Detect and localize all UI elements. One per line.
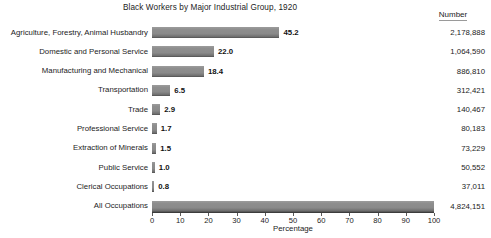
category-label: Public Service — [99, 163, 148, 173]
row-count-value: 312,421 — [415, 86, 485, 96]
chart-row: Extraction of Minerals1.573,229 — [0, 140, 491, 159]
row-count-value: 37,011 — [415, 182, 485, 192]
bar-value-label: 1.0 — [159, 163, 170, 173]
category-label: Professional Service — [77, 124, 148, 134]
bar-value-label: 18.4 — [208, 67, 223, 77]
bar-value-label: 45.2 — [283, 28, 298, 38]
category-label: All Occupations — [94, 201, 148, 211]
bar-value-label: 0.8 — [158, 182, 169, 192]
chart-row: Transportation6.5312,421 — [0, 82, 491, 101]
category-label: Domestic and Personal Service — [39, 47, 148, 57]
chart-row: Agriculture, Forestry, Animal Husbandry4… — [0, 24, 491, 43]
row-count-value: 4,824,151 — [415, 202, 485, 212]
bar[interactable] — [152, 123, 157, 134]
row-count-value: 886,810 — [415, 67, 485, 77]
row-count-value: 1,064,590 — [415, 47, 485, 57]
bar-value-label: 6.5 — [174, 86, 185, 96]
row-count-value: 80,183 — [415, 124, 485, 134]
bar[interactable] — [152, 85, 170, 96]
chart-row: Manufacturing and Mechanical18.4886,810 — [0, 63, 491, 82]
bar-value-label: 2.9 — [164, 105, 175, 115]
bar-value-label: 22.0 — [218, 47, 233, 57]
bar[interactable] — [152, 66, 204, 77]
bar[interactable] — [152, 46, 214, 57]
bar[interactable] — [152, 201, 434, 212]
bar[interactable] — [152, 104, 160, 115]
number-column-header-label: Number — [439, 10, 467, 21]
category-label: Manufacturing and Mechanical — [42, 66, 148, 76]
chart-row: Domestic and Personal Service22.01,064,5… — [0, 43, 491, 62]
chart-container: Black Workers by Major Industrial Group,… — [0, 0, 491, 238]
x-axis-title: Percentage — [152, 224, 434, 233]
row-count-value: 50,552 — [415, 163, 485, 173]
chart-row: Clerical Occupations0.837,011 — [0, 178, 491, 197]
category-label: Agriculture, Forestry, Animal Husbandry — [11, 28, 148, 38]
bar[interactable] — [152, 27, 279, 38]
chart-row: Public Service1.050,552 — [0, 159, 491, 178]
row-count-value: 2,178,888 — [415, 28, 485, 38]
category-label: Transportation — [98, 85, 148, 95]
bar-value-label: 1.5 — [160, 144, 171, 154]
chart-row: All Occupations4,824,151 — [0, 198, 491, 217]
bar[interactable] — [152, 162, 155, 173]
chart-title: Black Workers by Major Industrial Group,… — [0, 3, 420, 12]
number-column-header: Number — [421, 10, 485, 21]
chart-row: Trade2.9140,467 — [0, 101, 491, 120]
category-label: Extraction of Minerals — [73, 143, 148, 153]
chart-row: Professional Service1.780,183 — [0, 120, 491, 139]
row-count-value: 140,467 — [415, 105, 485, 115]
row-count-value: 73,229 — [415, 144, 485, 154]
bar-value-label: 1.7 — [161, 124, 172, 134]
bar[interactable] — [152, 181, 154, 192]
bar[interactable] — [152, 143, 156, 154]
category-label: Clerical Occupations — [76, 182, 148, 192]
chart-rows: Agriculture, Forestry, Animal Husbandry4… — [0, 24, 491, 217]
category-label: Trade — [128, 105, 148, 115]
